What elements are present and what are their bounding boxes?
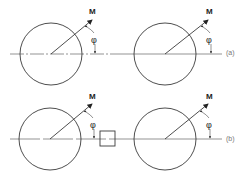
angle-arc xyxy=(203,27,210,33)
angle-label: φ xyxy=(206,35,212,45)
vector-label: M xyxy=(206,7,213,16)
svg-text:(b): (b) xyxy=(226,135,235,143)
angle-label: φ xyxy=(91,35,97,45)
vector-label: M xyxy=(89,7,96,16)
angle-arc xyxy=(86,112,93,118)
svg-text:M: M xyxy=(206,7,213,16)
angle-arc xyxy=(202,112,209,118)
square-box xyxy=(100,131,115,146)
vector-label: M xyxy=(206,92,213,101)
angle-arc xyxy=(87,27,94,33)
panel-b: M φ M φ (b) xyxy=(10,92,235,170)
magnetization-vector xyxy=(50,104,92,139)
panel-label-a: (a) xyxy=(226,49,235,57)
svg-text:φ: φ xyxy=(90,120,96,130)
panel-a: M φ M φ (a) xyxy=(10,7,235,85)
svg-text:M: M xyxy=(89,7,96,16)
svg-text:φ: φ xyxy=(206,35,212,45)
magnetization-vector xyxy=(51,20,92,54)
svg-text:φ: φ xyxy=(91,35,97,45)
svg-text:M: M xyxy=(89,92,96,101)
angle-label: φ xyxy=(206,120,212,130)
panel-label-b: (b) xyxy=(226,135,235,143)
svg-text:M: M xyxy=(206,92,213,101)
svg-text:φ: φ xyxy=(206,120,212,130)
svg-text:(a): (a) xyxy=(226,49,235,57)
magnetization-vector xyxy=(165,104,208,139)
magnetization-vector xyxy=(165,20,208,54)
angle-label: φ xyxy=(90,120,96,130)
vector-label: M xyxy=(89,92,96,101)
diagram-canvas: M φ M φ (a) M φ M φ (b) xyxy=(0,0,250,179)
